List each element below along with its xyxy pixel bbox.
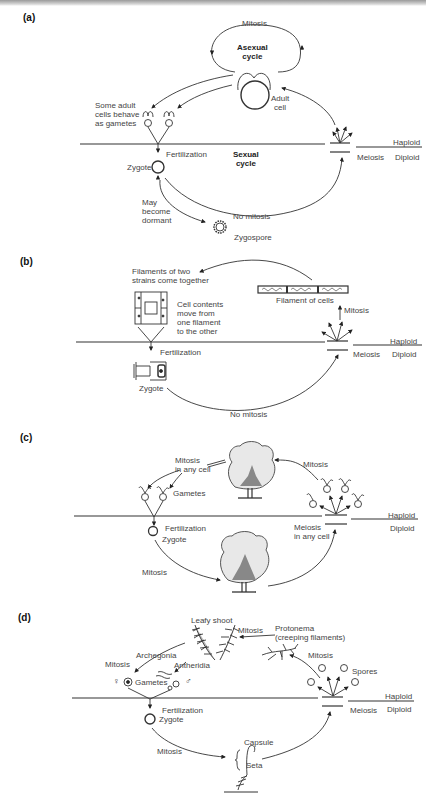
d-protonema-label: Protonema(creeping filaments) [275, 624, 345, 642]
c-haploid-label: Haploid [388, 511, 415, 520]
c-mitosis-top-label: Mitosis [303, 460, 328, 469]
b-cell-contents-label: Cell contentsmove fromone filamentto the… [177, 300, 223, 336]
a-asexual-cycle-label: Asexualcycle [237, 43, 268, 61]
b-filament-of-cells-label: Filament of cells [276, 296, 334, 305]
leafy-shoot-icon [192, 625, 239, 660]
a-sexual-cycle-label: Sexualcycle [233, 150, 259, 168]
zygote-icon [152, 161, 164, 173]
c-diploid-label: Diploid [390, 524, 414, 533]
d-mitosis-bottom-label: Mitosis [157, 747, 182, 756]
d-diploid-label: Diploid [387, 705, 411, 714]
protonema-icon [262, 644, 298, 660]
thallus-icon-top [228, 442, 274, 499]
a-meiosis-label: Meiosis [357, 153, 384, 162]
a-no-mitosis-label: No mitosis [233, 212, 270, 221]
a-haploid-label: Haploid [393, 138, 420, 147]
d-capsule-label: Capsule [244, 738, 273, 747]
a-mitosis-label: Mitosis [242, 19, 267, 28]
b-haploid-label: Haploid [390, 337, 417, 346]
d-mitosis-top-label: Mitosis [238, 626, 263, 635]
d-leafy-shoot-label: Leafy shoot [191, 616, 232, 625]
c-mitosis-bottom-label: Mitosis [142, 568, 167, 577]
b-filaments-note: Filaments of twostrains come together [132, 267, 209, 285]
b-meiosis-label: Meiosis [353, 350, 380, 359]
female-symbol: ♀ [113, 677, 120, 686]
b-mitosis-label: Mitosis [344, 306, 369, 315]
d-meiosis-label: Meiosis [350, 706, 377, 715]
b-zygote-label: Zygote [139, 384, 163, 393]
panel-b-label: (b) [20, 256, 33, 267]
male-symbol: ♂ [185, 677, 192, 686]
a-zygote-label: Zygote [127, 163, 151, 172]
c-zygote-label: Zygote [162, 527, 186, 536]
d-mitosis-left-label: Mitosis [105, 660, 130, 669]
a-dormant-label: Maybecomedormant [142, 198, 171, 225]
d-archegonia-label: Archegonia [136, 651, 176, 660]
d-haploid-label: Haploid [385, 692, 412, 701]
adult-cell-icon [241, 81, 269, 109]
thallus-icon-bottom [221, 532, 269, 593]
panel-b-graphics [76, 260, 422, 410]
b-diploid-label: Diploid [392, 350, 416, 359]
a-fertilization-label: Fertilization [166, 150, 207, 159]
d-zygote-label: Zygote [159, 715, 183, 724]
d-spores-label: Spores [352, 667, 377, 676]
b-no-mitosis-label: No mitosis [230, 410, 267, 419]
c-meiosis-any-cell-label: Meiosisin any cell [294, 523, 330, 541]
d-fertilization-label: Fertilization [162, 706, 203, 715]
d-antheridia-label: Antheridia [174, 661, 210, 670]
a-adult-cell-label: Adultcell [271, 94, 289, 112]
panel-c-label: (c) [20, 432, 32, 443]
c-mitosis-any-cell-label: Mitosisin any cell [175, 456, 211, 474]
d-mitosis-spores-label: Mitosis [308, 651, 333, 660]
d-seta-label: Seta [246, 761, 262, 770]
d-gametes-label: Gametes [135, 678, 167, 687]
a-diploid-label: Diploid [395, 153, 419, 162]
panel-d-label: (d) [18, 612, 31, 623]
brace-icon [235, 750, 240, 770]
c-gametes-label: Gametes [173, 489, 205, 498]
panel-c-graphics [74, 442, 418, 593]
a-zygospore-label: Zygospore [234, 233, 272, 242]
panel-a-label: (a) [23, 12, 35, 23]
a-gametes-note: Some adultcells behaveas gametes [95, 101, 139, 128]
b-fertilization-label: Fertilization [160, 348, 201, 357]
